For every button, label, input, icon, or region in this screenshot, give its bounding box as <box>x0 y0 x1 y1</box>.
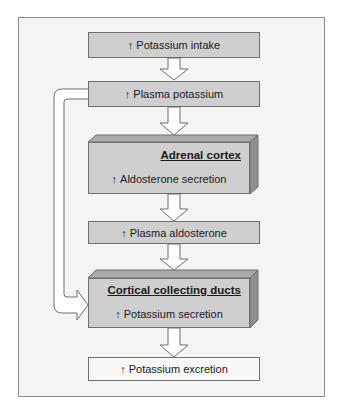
node-plasma-potassium: ↑ Plasma potassium <box>88 81 260 107</box>
down-arrow-icon <box>160 244 188 270</box>
down-arrow-icon <box>160 328 188 357</box>
node-title: Adrenal cortex <box>160 149 241 161</box>
node-cortical-collecting-ducts: Cortical collecting ducts ↑Potassium sec… <box>88 278 250 328</box>
node-label: Aldosterone secretion <box>120 173 226 185</box>
feedback-arrow-icon <box>54 89 88 320</box>
node-label: Potassium intake <box>136 39 220 51</box>
node-label: Plasma potassium <box>133 88 223 100</box>
ccd-side-face <box>250 270 258 328</box>
down-arrow-icon <box>160 58 188 80</box>
adrenal-cortex-top-face <box>88 135 258 142</box>
increase-arrow-icon: ↑ <box>112 173 118 185</box>
node-plasma-aldosterone: ↑ Plasma aldosterone <box>88 221 260 244</box>
increase-arrow-icon: ↑ <box>120 363 126 375</box>
increase-arrow-icon: ↑ <box>121 227 127 239</box>
diagram-connectors <box>0 0 343 411</box>
increase-arrow-icon: ↑ <box>115 308 121 320</box>
node-label: Plasma aldosterone <box>130 227 227 239</box>
node-label: Potassium secretion <box>124 308 223 320</box>
down-arrow-icon <box>160 107 188 135</box>
node-label: Potassium excretion <box>129 363 228 375</box>
node-potassium-excretion: ↑ Potassium excretion <box>88 357 260 381</box>
node-potassium-intake: ↑ Potassium intake <box>88 32 260 58</box>
node-subtext: ↑Potassium secretion <box>89 308 249 320</box>
adrenal-cortex-side-face <box>250 135 258 194</box>
down-arrow-icon <box>160 194 188 221</box>
ccd-top-face <box>88 270 258 278</box>
increase-arrow-icon: ↑ <box>125 88 131 100</box>
node-adrenal-cortex: Adrenal cortex ↑Aldosterone secretion <box>88 142 250 194</box>
increase-arrow-icon: ↑ <box>128 39 134 51</box>
node-title: Cortical collecting ducts <box>107 284 241 296</box>
node-subtext: ↑Aldosterone secretion <box>89 173 249 185</box>
